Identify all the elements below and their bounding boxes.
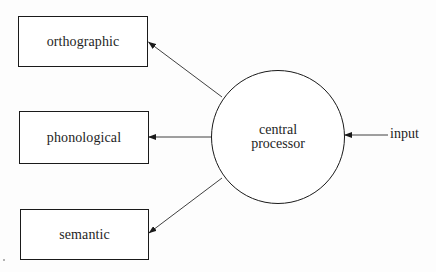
arrow-processor-to-semantic bbox=[149, 178, 222, 233]
phonological-label: phonological bbox=[47, 130, 121, 146]
semantic-label: semantic bbox=[59, 227, 110, 243]
central-processor-label-line1: central bbox=[259, 123, 297, 137]
orthographic-box: orthographic bbox=[18, 16, 148, 67]
central-processor-label-line2: processor bbox=[251, 137, 305, 151]
scan-artifact-dot bbox=[3, 259, 5, 261]
orthographic-label: orthographic bbox=[47, 34, 120, 50]
semantic-box: semantic bbox=[20, 209, 149, 260]
arrow-processor-to-orthographic bbox=[149, 42, 223, 97]
input-label: input bbox=[390, 126, 419, 142]
phonological-box: phonological bbox=[19, 111, 149, 164]
diagram-canvas: orthographic phonological semantic centr… bbox=[0, 0, 436, 272]
central-processor-circle: central processor bbox=[211, 70, 345, 204]
